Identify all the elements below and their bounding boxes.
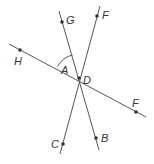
point-h <box>18 48 22 52</box>
label-c: C <box>51 138 59 150</box>
label-h: H <box>14 55 22 67</box>
label-f-top: F <box>102 9 110 21</box>
line-hf <box>9 44 146 117</box>
label-g: G <box>66 14 75 26</box>
point-g <box>60 20 64 24</box>
point-b <box>94 136 98 140</box>
label-f-right: F <box>132 97 140 109</box>
geometry-diagram: G F H D F C B A <box>0 0 154 164</box>
point-c <box>61 142 65 146</box>
point-f-top <box>95 14 99 18</box>
point-d <box>77 76 81 80</box>
label-d: D <box>83 74 91 86</box>
label-b: B <box>101 132 108 144</box>
label-angle-a: A <box>60 64 68 76</box>
point-f-right <box>134 110 138 114</box>
